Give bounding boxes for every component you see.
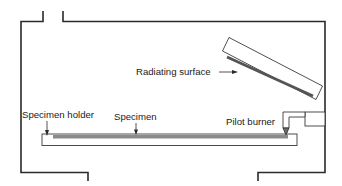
- pilot-burner-housing: [305, 112, 325, 126]
- radiating-surface-label: Radiating surface: [136, 66, 211, 77]
- specimen-strip: [53, 135, 288, 139]
- radiating-surface-arrowhead: [232, 70, 238, 74]
- specimen-holder-callout: Specimen holder: [22, 109, 95, 136]
- wall-top-right: [63, 11, 325, 181]
- radiating-panel-outline: [223, 38, 323, 100]
- radiating-surface-callout: Radiating surface: [136, 66, 238, 77]
- specimen-label: Specimen: [114, 111, 157, 122]
- specimen-holder-label: Specimen holder: [22, 109, 95, 120]
- pilot-burner-label: Pilot burner: [226, 116, 276, 127]
- specimen-callout: Specimen: [114, 111, 157, 135]
- enclosure-walls: [21, 11, 325, 181]
- radiating-surface: [223, 38, 323, 100]
- apparatus-diagram: Radiating surface Specimen holder Specim…: [0, 0, 342, 186]
- pilot-burner: [283, 112, 325, 135]
- pilot-burner-pipe: [283, 112, 305, 128]
- specimen-holder: [42, 134, 297, 146]
- wall-top-left: [21, 11, 88, 181]
